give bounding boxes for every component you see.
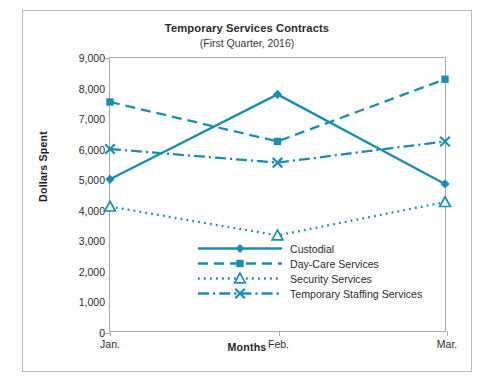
chart-legend: CustodialDay-Care ServicesSecurity Servi… [197, 241, 422, 301]
chart-figure: Temporary Services Contracts (First Quar… [22, 10, 472, 372]
x-tick-mark [279, 331, 280, 336]
data-point-marker [105, 201, 116, 211]
legend-item[interactable]: Security Services [197, 271, 422, 286]
legend-item[interactable]: Temporary Staffing Services [197, 286, 422, 301]
y-tick-label: 5,000 [79, 174, 105, 186]
y-tick-label: 3,000 [79, 235, 105, 247]
legend-sample-triangle-open-icon [197, 271, 283, 286]
data-point-marker [105, 175, 114, 184]
chart-title-block: Temporary Services Contracts (First Quar… [23, 21, 471, 50]
series-security-services [105, 197, 451, 240]
legend-label: Day-Care Services [290, 258, 379, 270]
data-point-marker [440, 197, 451, 207]
legend-item[interactable]: Day-Care Services [197, 256, 422, 271]
data-point-marker [235, 244, 244, 253]
x-axis-label: Months [23, 341, 471, 353]
chart-title: Temporary Services Contracts [23, 21, 471, 35]
y-tick-label: 9,000 [79, 52, 105, 64]
data-point-marker [273, 90, 282, 99]
y-tick-label: 7,000 [79, 113, 105, 125]
y-tick-label: 2,000 [79, 266, 105, 278]
legend-label: Custodial [290, 243, 334, 255]
data-point-marker [440, 137, 450, 147]
series-day-care-services [106, 76, 448, 146]
data-point-marker [106, 98, 113, 105]
y-tick-label: 6,000 [79, 144, 105, 156]
legend-label: Security Services [290, 273, 372, 285]
data-point-marker [274, 138, 281, 145]
y-tick-label: 4,000 [79, 205, 105, 217]
y-axis-label: Dollars Spent [37, 131, 49, 202]
legend-sample-diamond-icon [197, 241, 283, 256]
x-tick-mark [447, 331, 448, 336]
data-point-marker [440, 179, 449, 188]
data-point-marker [441, 76, 448, 83]
data-point-marker [236, 260, 243, 267]
legend-sample-x-icon [197, 286, 283, 301]
legend-sample-square-icon [197, 256, 283, 271]
series-line [110, 79, 445, 141]
y-tick-label: 8,000 [79, 83, 105, 95]
x-tick-mark [110, 331, 111, 336]
chart-subtitle: (First Quarter, 2016) [23, 36, 471, 50]
data-point-marker [235, 273, 246, 283]
legend-item[interactable]: Custodial [197, 241, 422, 256]
y-tick-label: 1,000 [79, 296, 105, 308]
legend-label: Temporary Staffing Services [290, 288, 422, 300]
